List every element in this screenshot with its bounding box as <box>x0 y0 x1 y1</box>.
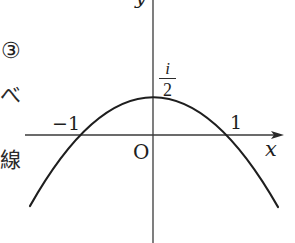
x-intercept-right-label: 1 <box>230 113 242 132</box>
text-fragment-sen: 線 <box>0 150 21 171</box>
item-marker: ③ <box>1 40 21 62</box>
origin-label: O <box>133 142 149 162</box>
parabola-figure <box>0 0 295 243</box>
text-fragment-be: べ <box>0 85 21 106</box>
x-intercept-left-label: −1 <box>52 114 80 133</box>
y-axis-label: y <box>135 0 146 7</box>
fraction-bar <box>159 78 176 79</box>
y-intercept-label: i 2 <box>159 60 176 99</box>
x-axis-label: x <box>265 139 277 160</box>
y-intercept-denominator: 2 <box>163 81 172 99</box>
y-intercept-numerator: i <box>165 60 170 77</box>
